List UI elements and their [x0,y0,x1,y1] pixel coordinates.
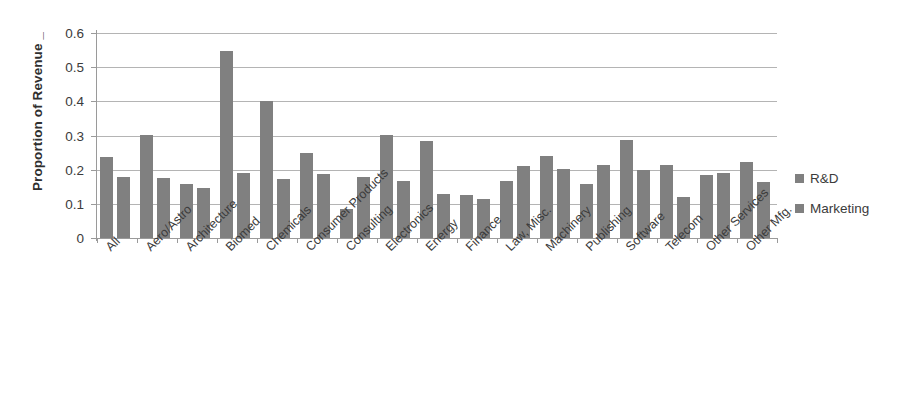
x-axis-tick [697,238,698,243]
x-axis-tick [377,238,378,243]
y-axis-tick [91,136,97,137]
y-axis-tick [91,33,97,34]
legend-label: R&D [810,171,839,186]
legend-label: Marketing [810,201,869,216]
legend-swatch-icon [795,204,804,213]
x-axis-tick [657,238,658,243]
chart-legend: R&DMarketing [795,163,905,223]
x-axis-tick [217,238,218,243]
bar-rd [140,135,153,238]
bar-marketing [117,177,130,238]
x-axis-tick [177,238,178,243]
y-axis-tick-labels: 00.10.20.30.40.50.6 [38,0,84,407]
x-axis-tick [137,238,138,243]
x-axis-tick [617,238,618,243]
bar-group [137,0,177,238]
bar-rd [260,101,273,238]
bars-layer [97,0,777,238]
y-axis-tick-label: 0.3 [44,128,84,143]
x-axis-tick [457,238,458,243]
y-axis-tick-label: 0.5 [44,60,84,75]
bar-rd [500,181,513,238]
legend-swatch-icon [795,174,804,183]
y-axis-tick-label: 0 [44,231,84,246]
bar-rd [700,175,713,238]
x-axis-tick-labels: AllAero/AstroArchitectureBiomedChemicals… [97,244,857,404]
y-axis-tick [91,204,97,205]
x-axis-tick [337,238,338,243]
x-axis-tick [537,238,538,243]
bar-group [497,0,537,238]
x-axis-tick [257,238,258,243]
bar-group [657,0,697,238]
bar-group [257,0,297,238]
y-axis-tick-label: 0.4 [44,94,84,109]
y-axis-tick-label: 0.6 [44,26,84,41]
x-axis-tick [417,238,418,243]
bar-rd [540,156,553,238]
bar-group [97,0,137,238]
y-axis-tick-label: 0.1 [44,196,84,211]
legend-item[interactable]: Marketing [795,193,905,223]
bar-rd [460,195,473,238]
bar-group [697,0,737,238]
bar-chart: Proportion of Revenue _ 00.10.20.30.40.5… [0,0,910,407]
bar-rd [300,153,313,238]
x-axis-tick [97,238,98,243]
y-axis-tick [91,101,97,102]
y-axis-tick [91,170,97,171]
bar-rd [660,165,673,238]
bar-rd [100,157,113,238]
x-axis-tick [737,238,738,243]
legend-item[interactable]: R&D [795,163,905,193]
x-axis-tick [777,238,778,243]
y-axis-tick [91,67,97,68]
x-axis-tick [497,238,498,243]
y-axis-tick-label: 0.2 [44,162,84,177]
x-axis-tick [297,238,298,243]
x-axis-tick [577,238,578,243]
bar-group [457,0,497,238]
